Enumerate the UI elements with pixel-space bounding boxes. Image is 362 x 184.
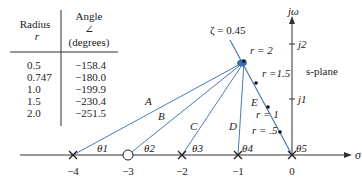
table-cell-r: 1.0 (27, 83, 41, 95)
angle-symbol: ∠ (84, 23, 93, 35)
col-angle-header: Angle (76, 10, 103, 22)
table-cell-angle: −180.0 (75, 71, 106, 83)
arrow-right-icon (344, 152, 352, 158)
vector-label-c: C (190, 120, 198, 132)
tick-neg2: −2 (176, 165, 188, 177)
theta4-label: θ4 (242, 142, 253, 154)
jomega-label: jω (286, 5, 299, 17)
arrow-up-icon (289, 16, 295, 24)
theta2-label: θ2 (144, 142, 155, 154)
table-cell-angle: −199.9 (75, 83, 106, 95)
imaginary-axis: jω j2 j1 s-plane (286, 5, 338, 155)
table-cell-angle: −158.4 (75, 59, 106, 71)
tick-0: 0 (289, 165, 295, 177)
vector-label-e: E (250, 96, 258, 108)
zero-icon (123, 150, 133, 160)
theta5-label: θ5 (296, 142, 307, 154)
table-cell-r: 2.0 (27, 107, 41, 119)
tick-neg4: −4 (67, 165, 79, 177)
label-r2: r = 2 (250, 44, 273, 56)
point-r1-5 (254, 81, 258, 85)
col-radius-sub: r (35, 30, 40, 42)
s-plane-label: s-plane (306, 65, 338, 77)
theta1-label: θ1 (97, 142, 108, 154)
col-angle-sub: (degrees) (69, 36, 110, 49)
label-r1-5: r =1.5 (262, 67, 291, 79)
vector-label-d: D (228, 120, 237, 132)
vector-label-b: B (158, 110, 165, 122)
label-r1: r = 1 (256, 108, 279, 120)
point-r0-5 (278, 130, 282, 134)
col-radius-header: Radius (20, 18, 51, 30)
label-r0-5: r = .5 (252, 124, 278, 136)
table-cell-angle: −230.4 (75, 95, 106, 107)
table-cell-r: 0.747 (27, 71, 52, 83)
vector-label-a: A (144, 95, 152, 107)
table-cell-r: 0.5 (27, 59, 41, 71)
sigma-label: σ (355, 148, 362, 162)
table-cell-r: 1.5 (27, 95, 41, 107)
point-r2 (242, 59, 246, 63)
root-locus-diagram: Radius r Angle ∠ (degrees) 0.5 −158.4 0.… (0, 0, 362, 184)
zeta-label: ζ = 0.45 (210, 24, 246, 37)
table-cell-angle: −251.5 (75, 107, 106, 119)
tick-j1: j1 (296, 93, 307, 105)
tick-neg3: −3 (122, 165, 134, 177)
theta3-label: θ3 (192, 142, 203, 154)
tick-j2: j2 (296, 38, 307, 50)
tick-neg1: −1 (232, 165, 244, 177)
real-axis: σ (20, 148, 362, 162)
radius-angle-table: Radius r Angle ∠ (degrees) 0.5 −158.4 0.… (10, 10, 118, 126)
